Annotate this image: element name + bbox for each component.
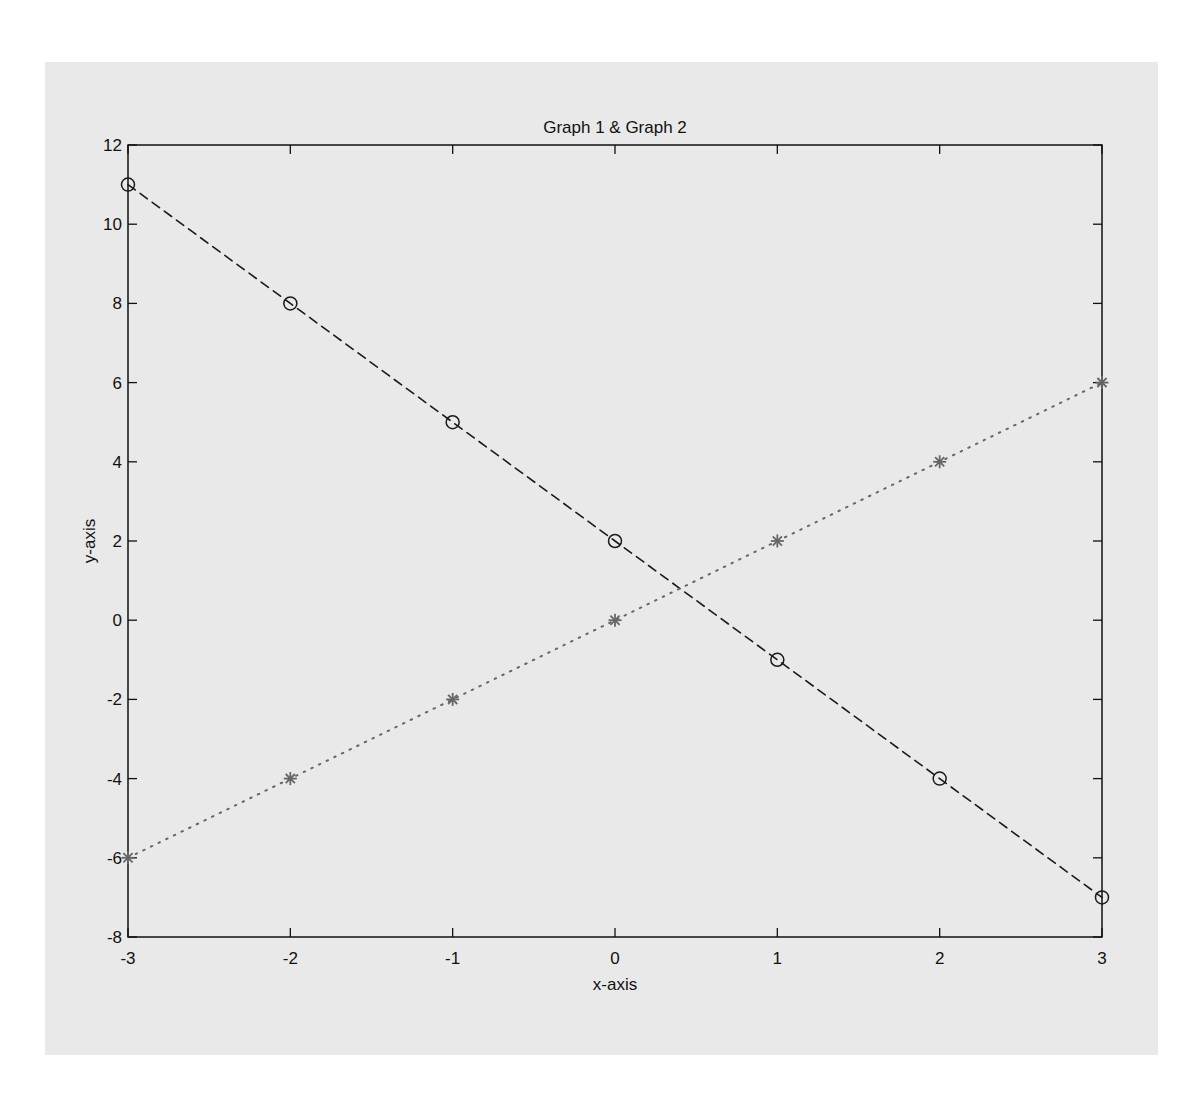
- x-axis-ticks: -3-2-10123: [120, 145, 1106, 968]
- x-tick-label: 2: [935, 949, 944, 968]
- series-line: [128, 185, 1102, 898]
- y-tick-label: -2: [107, 690, 122, 709]
- x-tick-label: -3: [120, 949, 135, 968]
- y-axis-label: y-axis: [80, 519, 99, 563]
- x-axis-label: x-axis: [593, 975, 637, 994]
- chart-title-group: Graph 1 & Graph 2: [543, 118, 687, 137]
- y-tick-label: 6: [113, 374, 122, 393]
- series-layer: [122, 178, 1109, 904]
- x-tick-label: 3: [1097, 949, 1106, 968]
- x-tick-label: -1: [445, 949, 460, 968]
- y-tick-label: -6: [107, 849, 122, 868]
- line-chart: Graph 1 & Graph 2 -3-2-10123 -8-6-4-2024…: [0, 0, 1200, 1097]
- y-tick-label: -8: [107, 928, 122, 947]
- star-marker-icon: [1096, 376, 1109, 389]
- star-marker-icon: [446, 693, 459, 706]
- chart-title: Graph 1 & Graph 2: [543, 118, 687, 137]
- star-marker-icon: [933, 455, 946, 468]
- y-axis-ticks: -8-6-4-2024681012: [103, 136, 1102, 947]
- series-graph-2: [122, 376, 1109, 864]
- y-tick-label: 10: [103, 215, 122, 234]
- circle-marker-icon: [446, 416, 459, 429]
- star-marker-icon: [284, 772, 297, 785]
- y-tick-label: 12: [103, 136, 122, 155]
- y-tick-label: 8: [113, 294, 122, 313]
- series-graph-1: [122, 178, 1109, 904]
- x-tick-label: 1: [773, 949, 782, 968]
- star-marker-icon: [609, 614, 622, 627]
- y-tick-label: 0: [113, 611, 122, 630]
- y-tick-label: 2: [113, 532, 122, 551]
- x-tick-label: -2: [283, 949, 298, 968]
- star-marker-icon: [771, 535, 784, 548]
- x-tick-label: 0: [610, 949, 619, 968]
- y-tick-label: -4: [107, 770, 122, 789]
- y-tick-label: 4: [113, 453, 122, 472]
- star-marker-icon: [122, 851, 135, 864]
